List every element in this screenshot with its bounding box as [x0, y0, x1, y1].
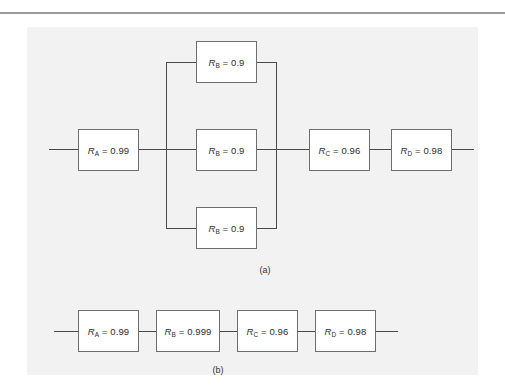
lead-b-3: [298, 331, 316, 332]
figure-panel: RA = 0.99 RB = 0.9 RB = 0.9 RB = 0.9 R: [27, 27, 478, 375]
block-ra-a[interactable]: RA = 0.99: [78, 129, 139, 171]
block-rb-top-label: RB = 0.9: [208, 57, 244, 68]
block-rb-middle-label: RB = 0.9: [208, 145, 244, 156]
input-lead-b: [54, 331, 78, 332]
subscript-b: B: [215, 228, 219, 235]
block-rc-b[interactable]: RC = 0.96: [237, 310, 298, 352]
block-rc-a-label: RC = 0.96: [319, 145, 361, 156]
subscript-a: A: [95, 150, 99, 157]
branch-top-right-lead: [257, 62, 277, 63]
branch-middle-left-lead: [166, 149, 197, 150]
output-lead-a: [452, 149, 474, 150]
parallel-right-bus: [276, 62, 277, 229]
subscript-c: C: [254, 331, 259, 338]
lead-rc-to-rd: [370, 149, 392, 150]
block-ra-b-label: RA = 0.99: [88, 326, 129, 337]
subscript-c: C: [326, 150, 331, 157]
lead-b-1: [139, 331, 157, 332]
block-rd-b-label: RD = 0.98: [325, 326, 367, 337]
block-rc-b-label: RC = 0.96: [247, 326, 289, 337]
block-rb-bottom-label: RB = 0.9: [208, 223, 244, 234]
subscript-a: A: [95, 331, 99, 338]
subscript-b: B: [172, 331, 176, 338]
block-rb-b[interactable]: RB = 0.999: [156, 310, 220, 352]
lead-bus-to-rc: [276, 149, 310, 150]
parallel-left-bus: [166, 62, 167, 229]
block-rb-b-label: RB = 0.999: [165, 326, 212, 337]
subscript-d: D: [332, 331, 337, 338]
block-rb-top[interactable]: RB = 0.9: [196, 41, 257, 83]
block-rd-b[interactable]: RD = 0.98: [315, 310, 376, 352]
block-rd-a-label: RD = 0.98: [401, 145, 443, 156]
block-rd-a[interactable]: RD = 0.98: [391, 129, 452, 171]
lead-ra-to-bus: [139, 149, 167, 150]
subscript-b: B: [215, 62, 219, 69]
block-rc-a[interactable]: RC = 0.96: [309, 129, 370, 171]
top-horizontal-rule: [0, 12, 505, 14]
subscript-d: D: [408, 150, 413, 157]
caption-b: (b): [198, 365, 238, 375]
input-lead-a: [49, 149, 78, 150]
block-rb-bottom[interactable]: RB = 0.9: [196, 207, 257, 249]
subscript-b: B: [215, 150, 219, 157]
block-rb-middle[interactable]: RB = 0.9: [196, 129, 257, 171]
branch-middle-right-lead: [257, 149, 277, 150]
caption-a: (a): [245, 265, 285, 275]
output-lead-b: [376, 331, 398, 332]
block-ra-b[interactable]: RA = 0.99: [78, 310, 139, 352]
branch-bottom-right-lead: [257, 228, 277, 229]
block-ra-a-label: RA = 0.99: [88, 145, 129, 156]
branch-top-left-lead: [166, 62, 197, 63]
lead-b-2: [220, 331, 238, 332]
branch-bottom-left-lead: [166, 228, 197, 229]
